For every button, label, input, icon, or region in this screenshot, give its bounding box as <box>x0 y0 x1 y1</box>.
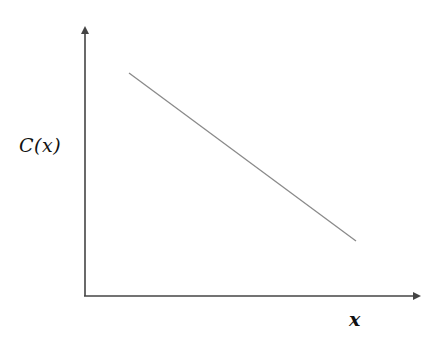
x-axis-label: x <box>349 308 360 330</box>
chart-canvas <box>0 0 441 350</box>
cost-function-chart: C(x) x <box>0 0 441 350</box>
y-axis-label: C(x) <box>19 134 61 156</box>
cost-line <box>129 73 356 241</box>
